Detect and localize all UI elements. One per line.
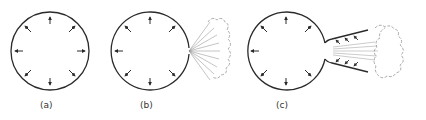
gas-jet xyxy=(333,42,378,60)
panel-c xyxy=(248,12,403,90)
gas-plume-rays xyxy=(189,22,220,80)
pressure-arrows xyxy=(251,17,311,85)
gas-cloud xyxy=(374,25,403,78)
gas-cloud xyxy=(208,18,231,78)
nozzle-upper-wall xyxy=(325,30,368,43)
pressure-arrows xyxy=(15,17,85,85)
nozzle-lower-wall xyxy=(325,59,368,72)
pressure-arrows xyxy=(115,17,175,85)
panel-b xyxy=(111,12,230,90)
panel-c-label: (c) xyxy=(276,100,288,110)
panel-a-label: (a) xyxy=(40,100,53,110)
rocket-thrust-diagram xyxy=(0,0,426,120)
panel-a xyxy=(11,12,89,90)
panel-b-label: (b) xyxy=(140,100,153,110)
